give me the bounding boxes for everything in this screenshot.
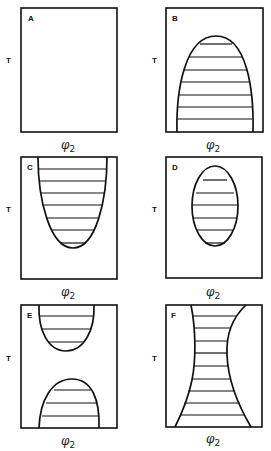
panel-d: D T φ2 — [152, 157, 262, 301]
panel-d-label: D — [172, 163, 178, 172]
panel-a-y-axis-label: T — [6, 56, 11, 65]
panel-d-closed-loop-curve — [192, 166, 238, 246]
panel-b-x-axis-label: φ2 — [206, 138, 220, 154]
panel-d-y-axis-label: T — [152, 205, 157, 214]
panel-f-x-axis-label: φ2 — [206, 432, 220, 448]
panel-e-x-axis-label: φ2 — [61, 434, 75, 450]
panel-b-label: B — [172, 14, 178, 23]
panel-c: C T φ2 — [6, 157, 117, 301]
panel-f: F T φ2 — [152, 305, 262, 448]
panel-e-lower-tie-lines — [42, 390, 98, 416]
panel-a-x-axis-label: φ2 — [61, 138, 75, 154]
panel-a-label: A — [28, 14, 34, 23]
panel-c-binodal-curve — [38, 157, 107, 248]
panel-c-label: C — [27, 163, 33, 172]
panel-e-upper-binodal-curve — [39, 305, 94, 351]
panel-c-tie-lines — [38, 169, 107, 243]
panel-e-y-axis-label: T — [6, 354, 11, 363]
panel-e-label: E — [27, 311, 33, 320]
panel-f-y-axis-label: T — [152, 354, 157, 363]
panel-c-x-axis-label: φ2 — [61, 285, 75, 301]
panel-f-left-binodal-curve — [175, 305, 195, 427]
phase-diagram-figure: A T φ2 B T φ2 C T φ2 — [0, 0, 271, 451]
panel-c-y-axis-label: T — [6, 205, 11, 214]
panel-e: E T φ2 — [6, 305, 117, 450]
panel-f-tie-lines — [180, 316, 245, 415]
panel-e-frame — [21, 305, 117, 428]
panel-b-y-axis-label: T — [152, 56, 157, 65]
panel-b: B T φ2 — [152, 8, 263, 154]
panel-f-label: F — [171, 311, 176, 320]
panel-a-frame — [21, 8, 117, 132]
panel-b-binodal-curve — [177, 36, 253, 132]
panel-a: A T φ2 — [6, 8, 117, 154]
panel-f-right-binodal-curve — [227, 305, 251, 427]
panel-d-x-axis-label: φ2 — [206, 285, 220, 301]
